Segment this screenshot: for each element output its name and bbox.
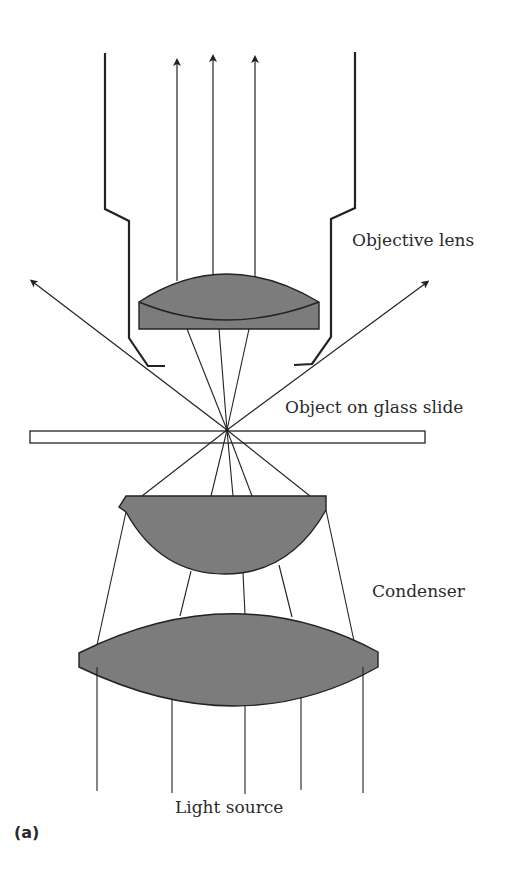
panel-label: (a) xyxy=(14,823,39,842)
microscope-diagram: Objective lens Object on glass slide Con… xyxy=(0,0,510,884)
label-light-source: Light source xyxy=(175,797,283,817)
conv-ray-3 xyxy=(227,329,249,430)
condenser-lower-lens xyxy=(79,614,378,706)
inter-ray-5 xyxy=(326,510,354,641)
output-rays xyxy=(177,58,255,281)
conv-ray-2 xyxy=(219,329,227,430)
label-objective-lens: Objective lens xyxy=(352,230,474,250)
objective-lens-body xyxy=(139,274,319,329)
inter-ray-1 xyxy=(97,512,126,645)
label-object-on-slide: Object on glass slide xyxy=(285,397,463,417)
objective-converging-rays xyxy=(187,329,249,430)
inter-ray-3 xyxy=(243,573,245,614)
condenser-upper-lens xyxy=(119,496,326,574)
inter-ray-4 xyxy=(279,565,292,617)
focal-point xyxy=(225,428,229,432)
label-condenser: Condenser xyxy=(372,581,466,601)
inter-ray-2 xyxy=(180,571,191,616)
objective-lens xyxy=(139,274,319,329)
